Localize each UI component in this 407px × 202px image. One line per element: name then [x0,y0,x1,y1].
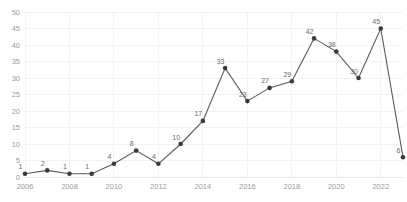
data-point-label: 38 [328,41,336,48]
y-axis-tick-label: 20 [12,107,20,116]
data-point-marker [45,168,50,173]
data-point-marker [201,119,206,124]
series-line [25,29,403,174]
data-point-label: 1 [85,163,89,170]
y-axis-tick-label: 35 [12,57,20,66]
y-axis-tick-label: 30 [12,74,20,83]
data-point-label: 10 [172,134,180,141]
x-axis-tick-label: 2014 [195,182,212,191]
series-markers [23,26,406,176]
data-point-marker [134,148,139,153]
data-point-label: 33 [217,58,225,65]
x-axis-tick-label: 2020 [328,182,345,191]
data-point-marker [67,171,72,176]
data-point-label: 4 [152,153,156,160]
data-point-marker [334,49,339,54]
y-axis-tick-label: 50 [12,8,20,17]
x-axis-tick-label: 2010 [106,182,123,191]
data-point-marker [290,79,295,84]
data-point-label: 2 [41,160,45,167]
data-point-label: 23 [239,91,247,98]
y-axis-tick-label: 45 [12,24,20,33]
data-point-marker [267,86,272,91]
data-point-label: 17 [194,110,202,117]
y-axis-tick-labels: 05101520253035404550 [12,8,20,182]
x-axis-tick-label: 2016 [239,182,256,191]
data-point-label: 6 [397,147,401,154]
data-point-marker [356,76,361,81]
data-point-label: 8 [130,140,134,147]
x-axis-tick-label: 2022 [372,182,389,191]
data-point-marker [23,171,28,176]
data-point-marker [378,26,383,31]
y-axis-tick-label: 15 [12,123,20,132]
y-axis-tick-label: 40 [12,41,20,50]
y-axis-tick-label: 10 [12,140,20,149]
chart-canvas: 05101520253035404550 2006200820102012201… [0,0,407,202]
data-point-label: 27 [261,77,269,84]
data-point-marker [156,162,161,167]
x-axis-tick-label: 2018 [283,182,300,191]
data-point-label: 42 [306,28,314,35]
data-point-label: 30 [350,68,358,75]
data-point-marker [245,99,250,104]
data-point-label: 4 [107,153,111,160]
data-point-label: 29 [283,71,291,78]
data-point-marker [112,162,117,167]
data-point-marker [178,142,183,147]
line-chart: 05101520253035404550 2006200820102012201… [0,0,407,202]
data-point-label: 45 [372,18,380,25]
data-point-marker [312,36,317,41]
x-axis-tick-label: 2008 [61,182,78,191]
data-point-marker [89,171,94,176]
x-axis-tick-labels: 200620082010201220142016201820202022 [17,182,389,191]
data-point-marker [401,155,406,160]
data-point-label: 1 [63,163,67,170]
data-point-label: 1 [19,163,23,170]
y-axis-tick-label: 25 [12,90,20,99]
x-axis-tick-label: 2006 [17,182,34,191]
x-axis-tick-label: 2012 [150,182,167,191]
data-point-marker [223,66,228,71]
y-axis-tick-label: 0 [16,173,20,182]
